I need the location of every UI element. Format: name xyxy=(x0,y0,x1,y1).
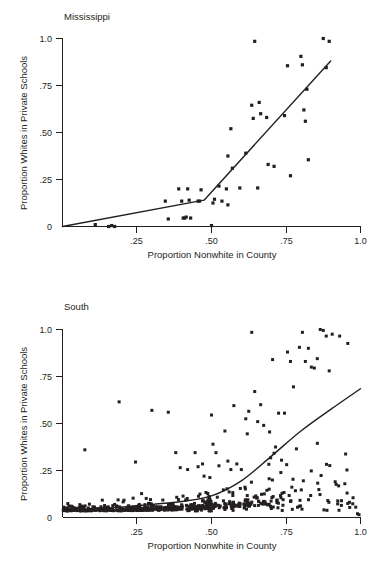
datapoint xyxy=(185,216,188,219)
datapoint xyxy=(212,505,215,508)
datapoint xyxy=(280,459,283,462)
scatter-points-mississippi xyxy=(94,37,331,228)
fit-line-south xyxy=(63,389,361,511)
datapoint xyxy=(140,492,143,495)
datapoint xyxy=(271,358,274,361)
datapoint xyxy=(254,494,257,497)
x-ticklabel-0-25: .25 xyxy=(130,236,143,246)
x-ticklabel-0-25: .25 xyxy=(130,527,143,537)
datapoint xyxy=(177,498,180,501)
datapoint xyxy=(225,187,228,190)
x-ticklabel-0-50: .50 xyxy=(205,236,218,246)
datapoint xyxy=(253,390,256,393)
datapoint xyxy=(331,333,334,336)
datapoint xyxy=(101,499,104,502)
y-ticklabel-1-0: 1.0 xyxy=(39,325,52,335)
y-axis-group-south: 1.0 .75 .50 .25 0 xyxy=(39,325,62,523)
y-axis-ticks xyxy=(56,39,63,180)
datapoint xyxy=(160,506,163,509)
datapoint xyxy=(167,217,170,220)
datapoint xyxy=(247,504,250,507)
datapoint xyxy=(252,117,255,120)
datapoint xyxy=(232,503,235,506)
datapoint xyxy=(319,328,322,331)
datapoint xyxy=(244,487,247,490)
datapoint xyxy=(328,464,331,467)
datapoint xyxy=(338,335,341,338)
datapoint xyxy=(299,55,302,58)
datapoint xyxy=(246,432,249,435)
datapoint xyxy=(197,465,200,468)
datapoint xyxy=(291,508,294,511)
datapoint xyxy=(289,174,292,177)
datapoint xyxy=(292,478,295,481)
y-ticklabel-0-75: .75 xyxy=(39,81,52,91)
x-axis-title-south: Proportion Nonwhite in County xyxy=(148,540,277,551)
datapoint xyxy=(204,491,207,494)
datapoint xyxy=(317,488,320,491)
datapoint xyxy=(186,505,189,508)
datapoint xyxy=(322,37,325,40)
datapoint xyxy=(174,451,177,454)
datapoint xyxy=(226,203,229,206)
datapoint xyxy=(343,482,346,485)
y-ticklabel-0-25: .25 xyxy=(39,466,52,476)
datapoint xyxy=(257,500,260,503)
datapoint xyxy=(289,500,292,503)
datapoint xyxy=(283,491,286,494)
datapoint xyxy=(346,342,349,345)
datapoint xyxy=(231,491,234,494)
datapoint xyxy=(166,508,169,511)
datapoint xyxy=(320,474,323,477)
datapoint xyxy=(300,488,303,491)
y-ticklabel-0-50: .50 xyxy=(39,419,52,429)
datapoint xyxy=(83,448,86,451)
datapoint xyxy=(271,479,274,482)
datapoint xyxy=(210,509,213,512)
datapoint xyxy=(185,508,188,511)
datapoint xyxy=(260,493,263,496)
datapoint xyxy=(186,468,189,471)
datapoint xyxy=(231,494,234,497)
datapoint xyxy=(326,499,329,502)
datapoint xyxy=(256,420,259,423)
datapoint xyxy=(348,506,351,509)
datapoint xyxy=(161,499,164,502)
datapoint xyxy=(338,509,341,512)
datapoint xyxy=(199,188,202,191)
datapoint xyxy=(259,403,262,406)
datapoint xyxy=(325,463,328,466)
datapoint xyxy=(235,462,238,465)
datapoint xyxy=(285,463,288,466)
datapoint xyxy=(117,498,120,501)
datapoint xyxy=(186,187,189,190)
datapoint xyxy=(224,506,227,509)
datapoint xyxy=(279,494,282,497)
datapoint xyxy=(65,506,68,509)
datapoint xyxy=(94,223,97,226)
datapoint xyxy=(180,507,183,510)
datapoint xyxy=(268,430,271,433)
datapoint xyxy=(336,499,339,502)
datapoint xyxy=(346,492,349,495)
datapoint xyxy=(223,502,226,505)
y-axis-title-mississippi: Proportion Whites in Private Schools xyxy=(18,56,29,210)
datapoint xyxy=(203,475,206,478)
datapoint xyxy=(88,503,91,506)
datapoint xyxy=(198,507,201,510)
datapoint xyxy=(288,494,291,497)
south-plot-svg: South 1.0 .75 .50 .25 0 .25 xyxy=(0,281,378,562)
datapoint xyxy=(348,501,351,504)
datapoint xyxy=(202,499,205,502)
datapoint xyxy=(117,509,120,512)
datapoint xyxy=(210,414,213,417)
datapoint xyxy=(328,369,331,372)
datapoint xyxy=(208,476,211,479)
y-axis-ticks xyxy=(56,330,63,471)
datapoint xyxy=(304,360,307,363)
datapoint xyxy=(208,506,211,509)
x-axis-group-south: .25 .50 .75 1.0 xyxy=(63,518,367,538)
datapoint xyxy=(222,499,225,502)
datapoint xyxy=(232,404,235,407)
datapoint xyxy=(229,468,232,471)
